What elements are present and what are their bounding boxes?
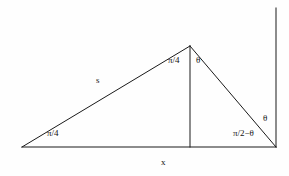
base-right-angle-label: π/2−θ <box>233 129 254 138</box>
apex-left-angle-label: π/4 <box>168 56 180 65</box>
base-length-label: x <box>161 158 166 167</box>
left-side-length-label: s <box>96 76 100 85</box>
base-left-angle-label: π/4 <box>47 129 59 138</box>
apex-right-angle-label: θ <box>196 56 200 65</box>
geometry-diagram: π/4 θ π/4 π/2−θ θ s x <box>0 0 289 176</box>
figure-canvas <box>0 0 289 176</box>
exterior-theta-label: θ <box>263 114 267 123</box>
